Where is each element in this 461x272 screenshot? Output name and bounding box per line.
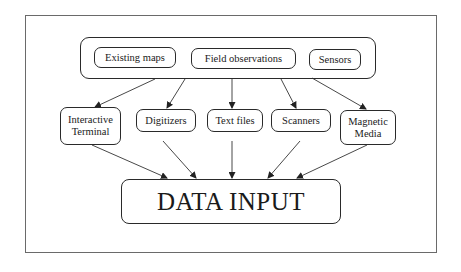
method-label-line2: Media: [355, 128, 382, 140]
source-label: Existing maps: [105, 52, 165, 64]
arrow-sources-to-interactive-terminal: [95, 79, 155, 107]
target-data-input: DATA INPUT: [121, 179, 341, 224]
target-label: DATA INPUT: [157, 188, 305, 216]
arrow-digitizers-to-target: [163, 141, 196, 178]
method-scanners: Scanners: [271, 109, 331, 132]
source-sensors: Sensors: [309, 49, 361, 70]
arrow-sources-to-scanners: [281, 79, 296, 108]
method-label: Scanners: [282, 115, 320, 127]
method-text-files: Text files: [207, 109, 263, 132]
method-digitizers: Digitizers: [136, 109, 196, 132]
arrow-scanners-to-target: [268, 141, 300, 178]
arrow-sources-to-magnetic-media: [312, 78, 366, 109]
source-label: Sensors: [319, 54, 352, 66]
arrow-sources-to-digitizers: [167, 79, 185, 108]
method-label: Text files: [215, 115, 254, 127]
arrow-interactive-terminal-to-target: [92, 145, 167, 178]
arrow-magnetic-media-to-target: [297, 145, 367, 178]
method-magnetic-media: Magnetic Media: [340, 110, 396, 145]
source-field-observations: Field observations: [191, 48, 296, 69]
method-label: Digitizers: [145, 115, 186, 127]
method-label-line1: Interactive: [68, 114, 113, 126]
source-existing-maps: Existing maps: [94, 47, 176, 68]
method-label-line2: Terminal: [72, 126, 110, 138]
method-interactive-terminal: Interactive Terminal: [60, 107, 121, 145]
source-label: Field observations: [205, 53, 282, 65]
method-label-line1: Magnetic: [348, 116, 388, 128]
